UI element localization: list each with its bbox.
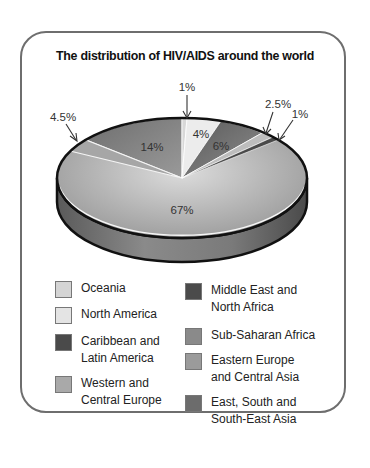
swatch-oceania — [55, 281, 72, 298]
legend-label: Oceania — [81, 280, 191, 297]
legend-label: Sub-Saharan Africa — [211, 327, 341, 344]
legend-label: North America — [81, 306, 191, 323]
legend-item-north-america: North America — [55, 306, 191, 324]
label-western-europe-2-5: 2.5% — [265, 98, 291, 110]
swatch-east-south-asia — [185, 395, 202, 412]
label-middle-east-1: 1% — [292, 108, 309, 120]
swatch-north-america — [55, 307, 72, 324]
legend-label: East, South and South-East Asia — [211, 394, 311, 428]
legend-label: Middle East and North Africa — [211, 282, 311, 316]
swatch-sub-saharan-africa — [185, 328, 202, 345]
swatch-middle-east-north-africa — [185, 283, 202, 300]
swatch-eastern-europe-central-asia — [185, 353, 202, 370]
label-caribbean-6: 6% — [213, 140, 230, 152]
legend-item-sub-saharan-africa: Sub-Saharan Africa — [185, 327, 341, 345]
label-sub-saharan-67: 67% — [170, 204, 193, 216]
legend-label: Western and Central Europe — [81, 375, 176, 409]
label-east-asia-14: 14% — [140, 141, 163, 153]
label-north-america-4: 4% — [193, 128, 210, 140]
swatch-caribbean-latin-america — [55, 334, 72, 351]
legend-item-east-south-asia: East, South and South-East Asia — [185, 394, 311, 428]
legend-item-caribbean-latin-america: Caribbean and Latin America — [55, 333, 176, 367]
label-eastern-europe-4-5: 4.5% — [50, 111, 76, 123]
label-oceania-1: 1% — [179, 81, 196, 93]
swatch-western-central-europe — [55, 376, 72, 393]
legend-item-oceania: Oceania — [55, 280, 191, 298]
legend-label: Caribbean and Latin America — [81, 333, 176, 367]
legend-item-middle-east-north-africa: Middle East and North Africa — [185, 282, 311, 316]
legend-item-eastern-europe-central-asia: Eastern Europe and Central Asia — [185, 352, 311, 386]
legend-item-western-central-europe: Western and Central Europe — [55, 375, 176, 409]
legend-label: Eastern Europe and Central Asia — [211, 352, 311, 386]
